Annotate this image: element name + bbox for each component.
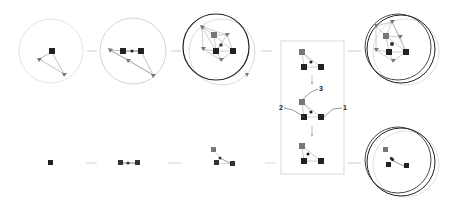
diagram-canvas: 3 2 1 [0, 0, 449, 205]
node-dark [120, 48, 126, 54]
node-triangle [62, 73, 67, 77]
label-2: 2 [279, 104, 283, 111]
label-3: 3 [319, 85, 323, 92]
top-stage-4 [365, 14, 439, 85]
top-stage-2 [100, 18, 166, 84]
bottom-stage-1 [48, 160, 53, 165]
node-triangle [37, 58, 42, 62]
node-dark [49, 48, 55, 54]
label-1: 1 [343, 104, 347, 111]
node-dark [138, 48, 144, 54]
detail-panel: 3 2 1 [279, 41, 347, 174]
bottom-stage-4 [365, 127, 439, 197]
bottom-stage-2 [118, 160, 140, 165]
top-stage-3 [183, 14, 255, 85]
bottom-stage-3 [211, 147, 235, 166]
top-stage-1 [19, 19, 83, 83]
